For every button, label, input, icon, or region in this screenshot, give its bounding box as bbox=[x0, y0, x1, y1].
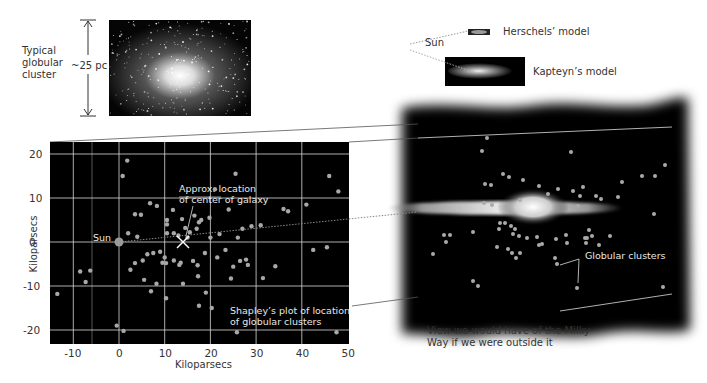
cluster-point bbox=[188, 230, 192, 234]
cluster-point bbox=[507, 175, 511, 179]
cluster-point bbox=[482, 201, 486, 205]
size-arrow bbox=[80, 20, 96, 116]
cluster-point bbox=[233, 172, 237, 176]
outside-caption-line-2: Way if we were outside it bbox=[427, 337, 590, 349]
cluster-point bbox=[171, 208, 175, 212]
outside-caption-line-1: View we would have of the Milky bbox=[427, 325, 590, 337]
cluster-point bbox=[261, 276, 265, 280]
cluster-point bbox=[231, 264, 235, 268]
cluster-point bbox=[571, 189, 575, 193]
cluster-point bbox=[203, 251, 207, 255]
models-sun-label: Sun bbox=[425, 37, 444, 49]
cluster-point bbox=[471, 279, 475, 283]
plot-caption: Shapley’s plot of location of globular c… bbox=[230, 305, 350, 327]
kapteyn-model-image bbox=[445, 57, 525, 86]
diagram-canvas bbox=[0, 0, 707, 383]
cluster-point bbox=[151, 251, 155, 255]
cluster-point bbox=[192, 213, 196, 217]
cluster-point bbox=[513, 227, 517, 231]
cluster-point bbox=[125, 158, 129, 162]
cluster-point bbox=[258, 223, 262, 227]
cluster-point bbox=[442, 233, 446, 237]
y-tick-label: 10 bbox=[29, 192, 42, 204]
cluster-point bbox=[207, 216, 211, 220]
cluster-point bbox=[128, 268, 132, 272]
y-tick-label: -10 bbox=[23, 280, 40, 292]
kapteyn-label: Kapteyn’s model bbox=[533, 66, 617, 78]
sun-marker bbox=[115, 238, 124, 247]
cluster-point bbox=[158, 249, 162, 253]
cluster-point bbox=[191, 259, 195, 263]
cluster-point bbox=[88, 268, 92, 272]
cluster-point bbox=[663, 163, 667, 167]
y-axis-label: Kiloparsecs bbox=[28, 216, 40, 273]
cluster-point bbox=[590, 234, 594, 238]
x-tick-label: -10 bbox=[64, 347, 81, 359]
cluster-point bbox=[196, 274, 200, 278]
globular-cluster-image bbox=[109, 20, 251, 116]
cluster-point bbox=[165, 218, 169, 222]
cluster-point bbox=[223, 248, 227, 252]
cluster-point bbox=[154, 282, 158, 286]
cluster-point bbox=[594, 194, 598, 198]
cluster-point bbox=[497, 227, 501, 231]
cluster-point bbox=[235, 330, 239, 334]
cluster-point bbox=[518, 198, 522, 202]
cluster-point bbox=[139, 213, 143, 217]
cluster-point bbox=[480, 149, 484, 153]
cluster-point bbox=[244, 257, 248, 261]
cluster-point bbox=[584, 241, 588, 245]
center-annotation-line-1: Approx. location bbox=[179, 183, 269, 194]
cluster-point bbox=[661, 285, 665, 289]
cluster-point bbox=[576, 204, 580, 208]
cluster-point bbox=[148, 201, 152, 205]
cluster-point bbox=[506, 247, 510, 251]
cluster-point bbox=[490, 203, 494, 207]
cluster-point bbox=[521, 178, 525, 182]
cluster-point bbox=[208, 235, 212, 239]
cluster-point bbox=[616, 195, 620, 199]
herschel-label: Herschels’ model bbox=[503, 26, 589, 38]
cluster-point bbox=[336, 189, 340, 193]
cluster-point bbox=[498, 221, 502, 225]
cluster-point bbox=[546, 192, 550, 196]
cluster-point bbox=[194, 227, 198, 231]
cluster-point bbox=[553, 256, 557, 260]
cluster-point bbox=[518, 251, 522, 255]
x-axis-label: Kiloparsecs bbox=[175, 359, 232, 371]
y-tick-label: -20 bbox=[23, 324, 40, 336]
cluster-point bbox=[556, 187, 560, 191]
x-tick-label: 0 bbox=[116, 347, 123, 359]
cluster-point bbox=[55, 292, 59, 296]
cluster-point bbox=[240, 227, 244, 231]
cluster-point bbox=[525, 236, 529, 240]
cluster-point bbox=[126, 231, 130, 235]
cluster-point bbox=[597, 243, 601, 247]
cluster-point bbox=[511, 232, 515, 236]
cluster-point bbox=[215, 255, 219, 259]
cluster-point bbox=[120, 174, 124, 178]
cluster-point bbox=[217, 232, 221, 236]
cluster-point bbox=[653, 174, 657, 178]
cluster-point bbox=[569, 150, 573, 154]
cluster-point bbox=[163, 255, 167, 259]
cluster-point bbox=[476, 284, 480, 288]
cluster-point bbox=[325, 245, 329, 249]
cluster-point bbox=[537, 184, 541, 188]
cluster-point bbox=[281, 207, 285, 211]
cluster-point bbox=[554, 237, 558, 241]
cluster-point bbox=[509, 224, 513, 228]
cluster-point bbox=[555, 262, 559, 266]
cluster-point bbox=[142, 278, 146, 282]
cluster-point bbox=[155, 204, 159, 208]
y-tick-label: 20 bbox=[29, 148, 42, 160]
cluster-point bbox=[495, 245, 499, 249]
cluster-point bbox=[226, 207, 230, 211]
cluster-point bbox=[581, 185, 585, 189]
cluster-point bbox=[537, 243, 541, 247]
cluster-point bbox=[517, 234, 521, 238]
outside-view-caption: View we would have of the Milky Way if w… bbox=[427, 325, 590, 349]
cluster-point bbox=[587, 228, 591, 232]
cluster-point bbox=[135, 235, 139, 239]
cluster-point bbox=[180, 217, 184, 221]
